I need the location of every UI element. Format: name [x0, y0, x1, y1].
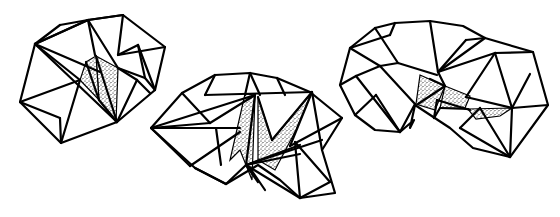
shape-left-polyhedron: [20, 15, 165, 143]
polyhedron-edge: [376, 95, 400, 132]
polyhedron-edge: [20, 102, 60, 118]
polyhedron-edge: [512, 105, 548, 108]
polyhedron-edge: [88, 15, 123, 20]
polyhedron-edge: [510, 108, 512, 157]
polyhedron-edge: [195, 168, 226, 184]
polyhedron-edge: [182, 93, 210, 123]
polyhedron-edge: [375, 28, 398, 63]
shape-right-polyhedron: [340, 21, 548, 157]
polyhedron-edge: [205, 92, 312, 95]
polyhedron-edge: [246, 165, 300, 198]
polyhedron-edge: [61, 80, 80, 143]
polyhedron-edge: [20, 80, 80, 102]
polyhedron-edge: [35, 44, 80, 80]
polyhedron-edge: [356, 66, 380, 76]
polyhedron-edge: [398, 63, 437, 75]
polyhedron-edge: [35, 20, 88, 44]
polyhedron-edge: [35, 44, 100, 72]
polyhedron-edge: [495, 53, 512, 108]
polyhedron-edge: [355, 95, 376, 115]
polyhedron-edge: [495, 52, 533, 53]
polyhedron-edge: [466, 97, 512, 108]
polyhedron-edge: [440, 108, 468, 109]
polyhedra-illustration: [0, 0, 560, 217]
polyhedron-edge: [245, 73, 250, 95]
polyhedron-edge: [295, 142, 300, 198]
shape-middle-polyhedron: [151, 73, 342, 198]
polyhedron-edge: [60, 118, 61, 143]
polyhedron-edge: [380, 63, 398, 66]
polyhedron-edge: [380, 66, 415, 104]
polyhedron-edge: [430, 21, 438, 72]
polyhedron-edge: [117, 80, 137, 122]
polyhedron-edge: [250, 73, 260, 95]
polyhedron-edge: [151, 128, 190, 166]
polyhedron-edge: [350, 48, 380, 66]
polyhedron-edge: [466, 53, 495, 97]
polyhedron-edge: [118, 15, 123, 55]
polyhedron-edge: [438, 38, 485, 72]
polyhedron-edge: [512, 74, 530, 108]
